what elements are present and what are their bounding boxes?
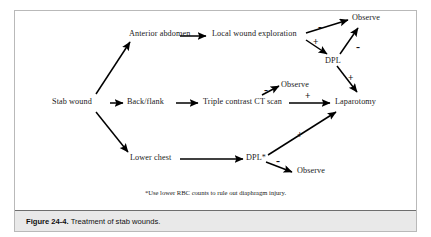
caption-label: Figure 24-4. (26, 217, 71, 226)
caption-text: Treatment of stab wounds. (71, 217, 161, 226)
caption-bar: Figure 24-4. Treatment of stab wounds. (15, 210, 416, 231)
figure-footnote: *Use lower RBC counts to rule out diaphr… (0, 190, 431, 197)
figure-root: Stab wound Anterior abdomen Local wound … (0, 0, 431, 237)
caption-inner: Figure 24-4. Treatment of stab wounds. (26, 217, 160, 226)
flowchart-arrows (0, 0, 431, 237)
